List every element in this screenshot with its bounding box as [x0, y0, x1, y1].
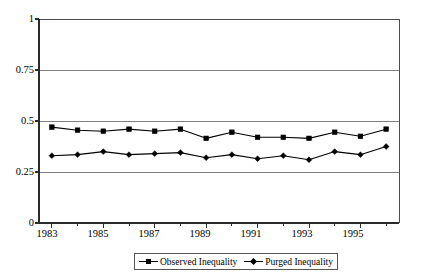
- marker-diamond-icon: [332, 149, 338, 155]
- data-point-purged-inequality-1988: [178, 150, 184, 156]
- legend-entry-purged-inequality: Purged Inequality: [244, 257, 333, 267]
- data-point-observed-inequality-1987: [152, 129, 157, 134]
- data-point-observed-inequality-1994: [332, 130, 337, 135]
- marker-square-icon: [50, 125, 55, 130]
- marker-square-icon: [358, 134, 363, 139]
- marker-square-icon: [127, 127, 132, 132]
- x-tick-label-1987: 1987: [129, 228, 169, 239]
- chart-legend: Observed Inequality Purged Inequality: [134, 253, 338, 270]
- marker-diamond-icon: [358, 152, 364, 158]
- y-tick-label-05: 0.5: [2, 115, 34, 126]
- marker-diamond-icon: [203, 155, 209, 161]
- y-tick-label-1: 1: [2, 13, 34, 24]
- x-tick-label-1985: 1985: [78, 228, 118, 239]
- marker-square-icon: [332, 130, 337, 135]
- marker-square-icon: [75, 128, 80, 133]
- data-point-observed-inequality-1990: [230, 130, 235, 135]
- x-tick-label-1993: 1993: [282, 228, 322, 239]
- legend-entry-observed-inequality: Observed Inequality: [139, 257, 237, 267]
- data-point-purged-inequality-1987: [152, 151, 158, 157]
- legend-label-observed-inequality: Observed Inequality: [160, 257, 237, 267]
- data-point-purged-inequality-1985: [100, 149, 106, 155]
- data-point-purged-inequality-1983: [49, 153, 55, 159]
- marker-diamond-icon: [75, 152, 81, 158]
- marker-square-icon: [255, 135, 260, 140]
- x-tick-label-1995: 1995: [333, 228, 373, 239]
- data-point-purged-inequality-1995: [358, 152, 364, 158]
- marker-square-icon: [178, 127, 183, 132]
- marker-square-icon: [230, 130, 235, 135]
- marker-diamond-icon: [383, 144, 389, 150]
- data-point-purged-inequality-1984: [75, 152, 81, 158]
- data-point-purged-inequality-1996: [383, 144, 389, 150]
- marker-diamond-icon: [152, 151, 158, 157]
- data-point-purged-inequality-1991: [255, 156, 261, 162]
- marker-diamond-icon: [229, 152, 235, 158]
- data-point-observed-inequality-1996: [384, 127, 389, 132]
- data-point-observed-inequality-1986: [127, 127, 132, 132]
- data-point-observed-inequality-1985: [101, 129, 106, 134]
- data-point-purged-inequality-1993: [306, 157, 312, 163]
- data-point-purged-inequality-1990: [229, 152, 235, 158]
- marker-square-icon: [204, 136, 209, 141]
- marker-square-icon: [101, 129, 106, 134]
- marker-diamond-icon: [280, 153, 286, 159]
- data-point-purged-inequality-1994: [332, 149, 338, 155]
- marker-square-icon: [152, 129, 157, 134]
- marker-square-icon: [384, 127, 389, 132]
- marker-square-icon: [281, 135, 286, 140]
- legend-marker-diamond-icon: [244, 257, 263, 266]
- marker-diamond-icon: [255, 156, 261, 162]
- marker-diamond-icon: [49, 153, 55, 159]
- data-point-observed-inequality-1992: [281, 135, 286, 140]
- data-point-observed-inequality-1995: [358, 134, 363, 139]
- data-point-observed-inequality-1983: [50, 125, 55, 130]
- data-point-purged-inequality-1989: [203, 155, 209, 161]
- data-point-observed-inequality-1984: [75, 128, 80, 133]
- y-tick-label-0: 0: [2, 217, 34, 228]
- data-point-observed-inequality-1991: [255, 135, 260, 140]
- marker-diamond-icon: [126, 152, 132, 158]
- data-point-purged-inequality-1986: [126, 152, 132, 158]
- x-tick-label-1989: 1989: [180, 228, 220, 239]
- y-tick-label-025: 0.25: [2, 166, 34, 177]
- y-tick-label-075: 0.75: [2, 64, 34, 75]
- data-point-observed-inequality-1993: [307, 136, 312, 141]
- x-tick-label-1991: 1991: [231, 228, 271, 239]
- marker-diamond-icon: [178, 150, 184, 156]
- marker-square-icon: [307, 136, 312, 141]
- legend-marker-square-icon: [139, 257, 158, 266]
- marker-diamond-icon: [100, 149, 106, 155]
- marker-diamond-icon: [306, 157, 312, 163]
- line-chart: 1 0.75 0.5 0.25 0 1983 1985 1987 1989 19…: [0, 0, 428, 275]
- data-point-purged-inequality-1992: [280, 153, 286, 159]
- x-tick-label-1983: 1983: [27, 228, 67, 239]
- legend-label-purged-inequality: Purged Inequality: [265, 257, 333, 267]
- data-point-observed-inequality-1989: [204, 136, 209, 141]
- data-point-observed-inequality-1988: [178, 127, 183, 132]
